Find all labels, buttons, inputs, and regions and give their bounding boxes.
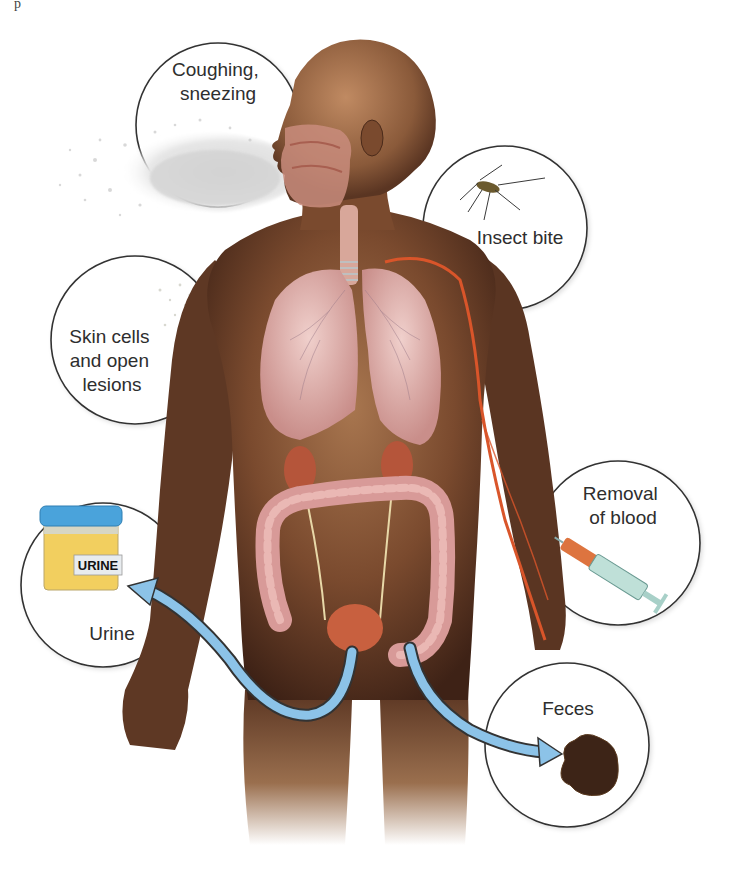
urine-jar-icon: URINE bbox=[40, 506, 122, 590]
portals-of-exit-illustration: URINE Coughing, sneezing Insect bite Ski… bbox=[0, 0, 738, 881]
ear bbox=[361, 120, 383, 156]
insect-bite-label: Insect bite bbox=[477, 227, 564, 248]
bladder bbox=[327, 604, 383, 652]
urine-jar-label: URINE bbox=[78, 558, 119, 573]
urine-label: Urine bbox=[89, 623, 134, 644]
feces-label: Feces bbox=[542, 698, 594, 719]
